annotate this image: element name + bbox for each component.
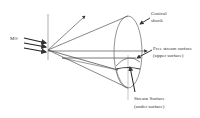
mach-label: M∞ <box>10 36 18 42</box>
conical-shock-leader <box>140 18 150 24</box>
conical-shock-diagram <box>0 0 200 118</box>
freestream-arrows <box>24 38 46 52</box>
stream-surface-label-2: (under surface) <box>134 104 164 110</box>
free-stream-label-1: Free stream surface <box>153 46 192 52</box>
free-stream-label-2: (upper surface) <box>153 53 183 59</box>
upward-ray-arrow <box>48 16 85 50</box>
stream-surface-label-1: Stream Surface <box>134 96 165 102</box>
stream-surface-leader <box>130 67 135 92</box>
lower-surface-ray-2 <box>62 58 118 70</box>
conical-shock-label-1: Conical <box>151 11 167 17</box>
conical-shock-label-2: shock <box>151 18 163 24</box>
